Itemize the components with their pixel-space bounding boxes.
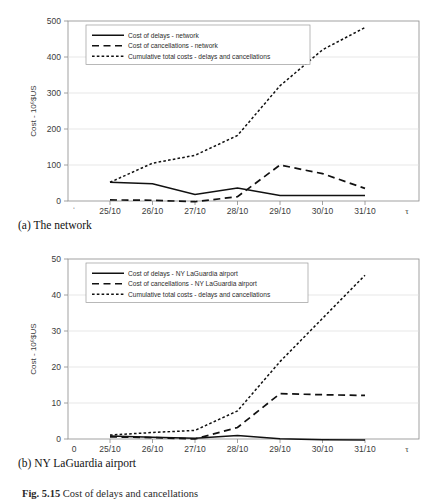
subcaption-a: (a) The network bbox=[18, 219, 92, 231]
y-tick-label: 40 bbox=[52, 290, 62, 300]
y-tick-label: 50 bbox=[52, 254, 62, 264]
y-tick-label: 300 bbox=[47, 88, 61, 98]
y-tick-label: 10 bbox=[52, 398, 62, 408]
y-tick-label: 100 bbox=[47, 160, 61, 170]
x-tick-label: 27/10 bbox=[184, 206, 206, 216]
x-tick-label: 26/10 bbox=[142, 206, 164, 216]
y-tick-label: 500 bbox=[47, 16, 61, 26]
x-origin-label: ˈ bbox=[73, 206, 76, 216]
legend-label-1: Cost of delays - NY LaGuardia airport bbox=[128, 270, 238, 278]
x-tick-label: 26/10 bbox=[142, 444, 164, 454]
figure-caption: Fig. 5.15 Cost of delays and cancellatio… bbox=[22, 487, 432, 501]
legend-label-3: Cumulative total costs - delays and canc… bbox=[128, 53, 271, 61]
legend-label-1: Cost of delays - network bbox=[128, 32, 199, 40]
figure-caption-label: Fig. 5.15 bbox=[22, 488, 60, 499]
x-tick-label: 30/10 bbox=[312, 444, 334, 454]
legend-label-2: Cost of cancellations - NY LaGuardia air… bbox=[128, 280, 257, 288]
y-tick-label: 20 bbox=[52, 362, 62, 372]
x-axis-tau-symbol: τ bbox=[405, 206, 409, 216]
y-tick-label: 400 bbox=[47, 52, 61, 62]
x-origin-label: 0 bbox=[72, 444, 77, 454]
x-tick-label: 28/10 bbox=[227, 206, 249, 216]
x-tick-label: 28/10 bbox=[227, 444, 249, 454]
legend-label-2: Cost of cancellations - network bbox=[128, 42, 218, 49]
chart-panel-network: 0100200300400500Cost - 10⁶$US25/1026/102… bbox=[0, 4, 441, 216]
figure-caption-text: Cost of delays and cancellations bbox=[63, 488, 198, 499]
y-tick-label: 0 bbox=[56, 434, 61, 444]
y-axis-title: Cost - 10⁶$US bbox=[29, 85, 38, 136]
figure-page: 0100200300400500Cost - 10⁶$US25/1026/102… bbox=[0, 0, 441, 501]
x-tick-label: 25/10 bbox=[99, 444, 121, 454]
chart-a: 0100200300400500Cost - 10⁶$US25/1026/102… bbox=[0, 4, 441, 216]
legend-label-3: Cumulative total costs - delays and canc… bbox=[128, 291, 271, 299]
x-tick-label: 29/10 bbox=[269, 444, 291, 454]
subcaption-b: (b) NY LaGuardia airport bbox=[18, 457, 136, 469]
y-tick-label: 200 bbox=[47, 124, 61, 134]
x-tick-label: 27/10 bbox=[184, 444, 206, 454]
x-tick-label: 30/10 bbox=[312, 206, 334, 216]
x-tick-label: 31/10 bbox=[354, 206, 376, 216]
chart-b: 01020304050Cost - 10⁶$US25/1026/1027/102… bbox=[0, 242, 441, 454]
y-tick-label: 30 bbox=[52, 326, 62, 336]
x-tick-label: 29/10 bbox=[269, 206, 291, 216]
x-axis-tau-symbol: τ bbox=[405, 444, 409, 454]
y-axis-title: Cost - 10⁶$US bbox=[29, 323, 38, 374]
x-tick-label: 31/10 bbox=[354, 444, 376, 454]
x-tick-label: 25/10 bbox=[99, 206, 121, 216]
chart-panel-laguardia: 01020304050Cost - 10⁶$US25/1026/1027/102… bbox=[0, 242, 441, 454]
y-tick-label: 0 bbox=[56, 196, 61, 206]
